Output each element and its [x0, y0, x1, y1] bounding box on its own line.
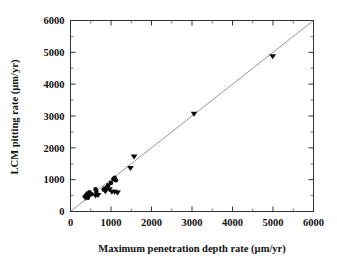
- x-tick-label: 4000: [222, 217, 243, 228]
- data-point-circle: [114, 178, 119, 183]
- x-tick-label: 0: [68, 217, 73, 228]
- x-tick-label: 2000: [141, 217, 162, 228]
- scatter-plot: 0100020003000400050006000 01000200030004…: [0, 0, 337, 262]
- data-point-circle: [109, 181, 114, 186]
- x-axis-title: Maximum penetration depth rate (µm/yr): [98, 243, 286, 255]
- y-tick-label: 3000: [44, 111, 65, 122]
- x-tick-label: 5000: [263, 217, 284, 228]
- y-tick-label: 2000: [44, 143, 65, 154]
- x-tick-label: 3000: [182, 217, 203, 228]
- y-tick-label: 0: [59, 206, 64, 217]
- figure-container: 0100020003000400050006000 01000200030004…: [0, 0, 337, 262]
- y-tick-label: 5000: [44, 47, 65, 58]
- x-tick-label: 1000: [101, 217, 122, 228]
- figure-background: [0, 0, 337, 262]
- y-tick-label: 4000: [44, 79, 65, 90]
- x-tick-label: 6000: [303, 217, 324, 228]
- y-axis-title: LCM pitting rate (µm/yr): [9, 59, 21, 174]
- y-tick-label: 1000: [44, 174, 65, 185]
- y-tick-label: 6000: [44, 15, 65, 26]
